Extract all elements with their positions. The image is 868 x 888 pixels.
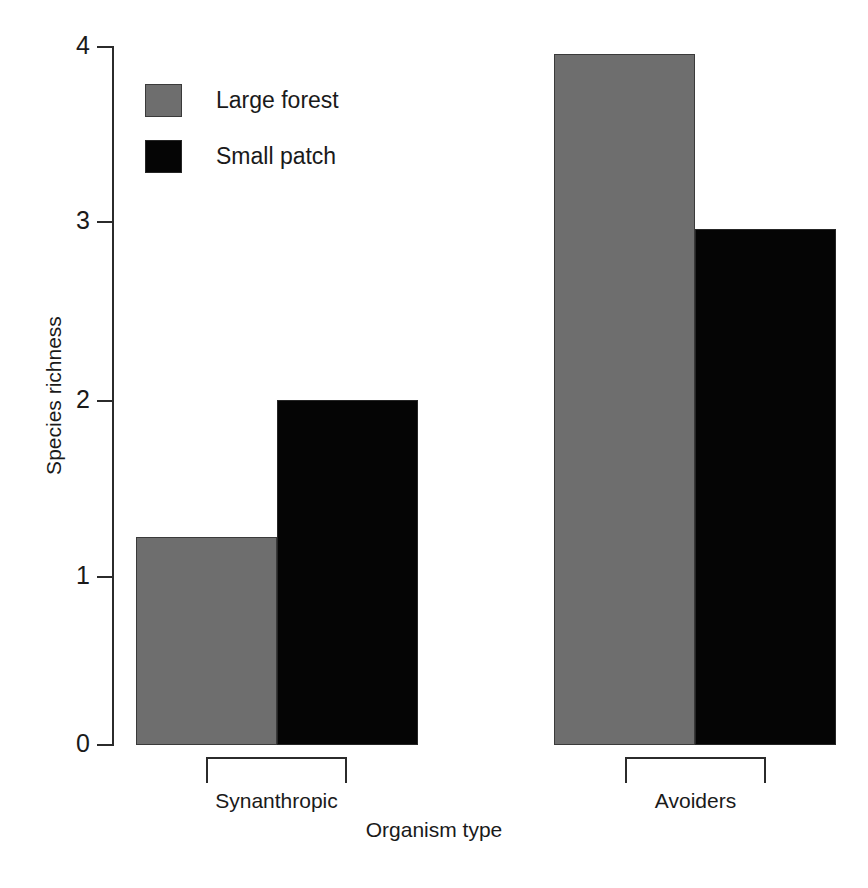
bar-avoiders-small-patch — [695, 229, 836, 745]
x-axis-title: Organism type — [0, 818, 868, 841]
y-axis-tick-0 — [97, 744, 112, 746]
plot-area: 4 3 2 1 0 Species richness — [0, 0, 868, 800]
legend-swatch-large-forest — [145, 84, 182, 117]
legend-item-small-patch: Small patch — [145, 139, 339, 173]
bracket-top — [625, 757, 766, 759]
bracket-top — [206, 757, 347, 759]
legend-item-large-forest: Large forest — [145, 83, 339, 117]
figure-container: 4 3 2 1 0 Species richness — [0, 0, 868, 888]
y-axis-tick-label-3: 3 — [38, 208, 90, 233]
y-axis-tick-label-3-wrap: 3 — [20, 208, 90, 233]
bracket-right-tick — [764, 757, 766, 783]
y-axis-tick-3 — [97, 221, 112, 223]
y-axis-tick-2 — [97, 400, 112, 402]
x-axis-group-synanthropic: Synanthropic — [206, 757, 347, 785]
legend-swatch-small-patch — [145, 140, 182, 173]
y-axis-line — [112, 46, 114, 746]
bar-synanthropic-small-patch — [277, 400, 418, 745]
x-axis-group-avoiders: Avoiders — [625, 757, 766, 785]
y-axis-tick-label-4: 4 — [38, 33, 90, 58]
x-axis-group-label-synanthropic: Synanthropic — [206, 789, 347, 812]
y-axis-tick-label-4-wrap: 4 — [20, 33, 90, 58]
figure-caption — [30, 876, 830, 888]
bracket-right-tick — [345, 757, 347, 783]
legend-label-large-forest: Large forest — [216, 88, 339, 112]
bracket-left-tick — [206, 757, 208, 783]
bar-avoiders-large-forest — [554, 54, 695, 745]
y-axis-tick-1 — [97, 576, 112, 578]
y-axis-tick-label-1-wrap: 1 — [20, 563, 90, 588]
bracket-left-tick — [625, 757, 627, 783]
x-axis-group-label-avoiders: Avoiders — [625, 789, 766, 812]
y-axis-tick-label-0-wrap: 0 — [20, 731, 90, 756]
y-axis-tick-label-0: 0 — [38, 731, 90, 756]
legend-label-small-patch: Small patch — [216, 144, 336, 168]
y-axis-title: Species richness — [43, 246, 64, 546]
bar-synanthropic-large-forest — [136, 537, 277, 745]
legend: Large forest Small patch — [145, 83, 339, 195]
y-axis-tick-label-1: 1 — [38, 563, 90, 588]
y-axis-tick-4 — [97, 46, 112, 48]
